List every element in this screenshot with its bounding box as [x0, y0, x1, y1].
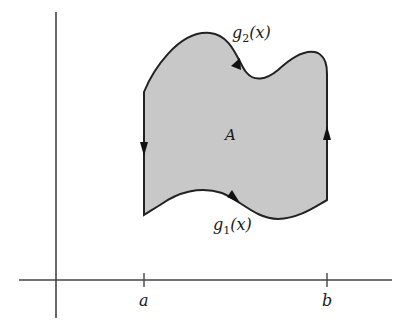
lower-curve-label: g1(x): [213, 215, 252, 237]
tick-label-b: b: [322, 291, 332, 310]
tick-label-a: a: [139, 291, 149, 310]
upper-curve-label: g2(x): [232, 23, 271, 45]
region-label: A: [223, 126, 236, 144]
diagram-canvas: A g2(x) g1(x) a b: [0, 0, 402, 329]
